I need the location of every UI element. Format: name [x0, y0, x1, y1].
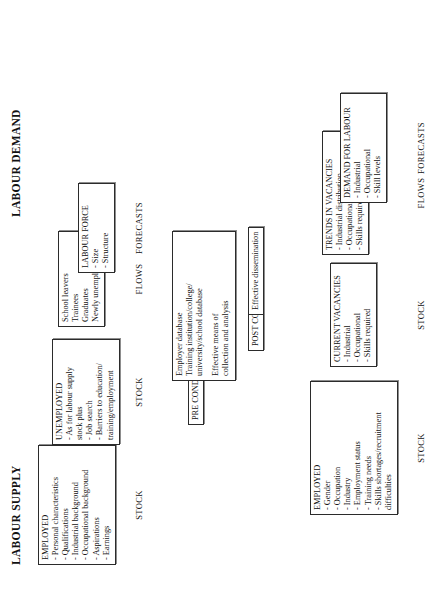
box-demand-employed-list: - Gender - Occupation - Industry - Emplo…: [323, 386, 394, 510]
list-item: - Industrial: [353, 98, 363, 198]
list-item: - Industrial background: [71, 450, 81, 560]
label-demand-vacancies-stock: STOCK: [416, 263, 426, 367]
box-demand-current-vacancies-title: CURRENT VACANCIES: [333, 268, 343, 362]
list-item: - Earnings: [102, 450, 112, 560]
box-demand-forecast-list: - Industrial - Occupational - Skill leve…: [353, 98, 383, 198]
label-supply-forecasts: FORECASTS: [134, 183, 144, 273]
list-item: - Barriers to education/: [95, 344, 105, 440]
list-item: - Industrial: [343, 268, 353, 362]
pre-condition-line: Effective means of: [211, 236, 221, 376]
list-item: - Occupational background: [81, 450, 91, 560]
list-item: - Occupational: [353, 268, 363, 362]
box-demand-forecast: DEMAND FOR LABOUR - Industrial - Occupat…: [340, 93, 387, 203]
box-demand-trends-title: TRENDS IN VACANCIES: [325, 136, 335, 250]
list-item: School leavers: [61, 236, 71, 322]
list-item: - Structure: [101, 188, 111, 268]
heading-labour-demand: LABOUR DEMAND: [10, 109, 22, 217]
label-demand-employed-stock: STOCK: [416, 381, 426, 515]
list-item: - As for labour supply: [65, 344, 75, 440]
list-item: stock plus: [75, 344, 85, 440]
page-rotation-wrapper: LABOUR SUPPLY LABOUR DEMAND EMPLOYED - P…: [0, 0, 431, 603]
box-demand-current-vacancies-list: - Industrial - Occupational - Skills req…: [343, 268, 373, 362]
pre-condition-line: Training institution/college/: [185, 236, 195, 376]
list-item: - Job search: [85, 344, 95, 440]
list-item: - Occupation: [333, 386, 343, 510]
box-supply-labour-force: LABOUR FORCE - Size - Structure: [78, 183, 115, 273]
box-supply-employed: EMPLOYED - Personal characteristics - Qu…: [38, 445, 116, 565]
list-item: difficulties: [384, 386, 394, 510]
box-supply-employed-list: - Personal characteristics - Qualificati…: [51, 450, 112, 560]
list-item: - Skills required: [363, 268, 373, 362]
box-supply-unemployed-list: - As for labour supply stock plus - Job …: [65, 344, 116, 440]
pre-condition-line: university/school database: [195, 236, 205, 376]
label-demand-forecasts: FORECASTS: [416, 93, 426, 203]
label-supply-unemployed-stock: STOCK: [134, 339, 144, 445]
heading-labour-supply: LABOUR SUPPLY: [10, 465, 22, 565]
list-item: training/employment: [106, 344, 116, 440]
diagram-canvas: LABOUR SUPPLY LABOUR DEMAND EMPLOYED - P…: [0, 0, 431, 603]
list-item: - Industry: [343, 386, 353, 510]
pre-condition-line: Employer database: [175, 236, 185, 376]
pre-condition-line: collection and analysis: [221, 236, 231, 376]
list-item: - Training needs: [364, 386, 374, 510]
box-supply-unemployed-title: UNEMPLOYED: [55, 344, 65, 440]
label-supply-employed-stock: STOCK: [134, 445, 144, 565]
list-item: - Skill levels: [373, 98, 383, 198]
box-demand-current-vacancies: CURRENT VACANCIES - Industrial - Occupat…: [330, 263, 377, 367]
box-demand-employed: EMPLOYED - Gender - Occupation - Industr…: [310, 381, 398, 515]
box-supply-unemployed: UNEMPLOYED - As for labour supply stock …: [52, 339, 120, 445]
list-item: - Skills shortages/recruitment: [374, 386, 384, 510]
list-item: - Qualifications: [61, 450, 71, 560]
list-item: - Occupational: [363, 98, 373, 198]
list-item: - Size: [91, 188, 101, 268]
list-item: - Employment status: [353, 386, 363, 510]
box-supply-labour-force-list: - Size - Structure: [91, 188, 111, 268]
box-supply-employed-title: EMPLOYED: [41, 450, 51, 560]
list-item: - Personal characteristics: [51, 450, 61, 560]
box-supply-labour-force-title: LABOUR FORCE: [81, 188, 91, 268]
box-post-condition: Effective dissemination: [248, 227, 264, 315]
list-item: - Gender: [323, 386, 333, 510]
box-demand-employed-title: EMPLOYED: [313, 386, 323, 510]
box-pre-conditions: Employer database Training institution/c…: [172, 231, 236, 381]
list-item: - Aspirations: [92, 450, 102, 560]
box-demand-forecast-title: DEMAND FOR LABOUR: [343, 98, 353, 198]
